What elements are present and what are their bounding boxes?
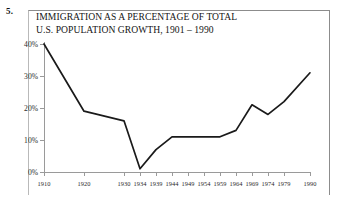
x-tick-label: 1939 xyxy=(150,180,163,187)
y-tick-label: 30% xyxy=(24,72,38,81)
x-tick-label: 1910 xyxy=(38,180,51,187)
data-line xyxy=(44,44,310,172)
x-tick-label: 1954 xyxy=(198,180,211,187)
x-tick-label: 1979 xyxy=(278,180,291,187)
x-tick xyxy=(268,172,269,176)
x-tick-label: 1959 xyxy=(214,180,227,187)
x-tick-label: 1930 xyxy=(118,180,131,187)
x-tick xyxy=(236,172,237,176)
x-tick-label: 1964 xyxy=(230,180,243,187)
x-tick-label: 1920 xyxy=(78,180,91,187)
x-tick xyxy=(124,172,125,176)
series-polyline xyxy=(44,44,310,169)
figure-root: 5. IMMIGRATION AS A PERCENTAGE OF TOTAL … xyxy=(0,0,342,202)
x-tick xyxy=(44,172,45,176)
x-tick xyxy=(188,172,189,176)
x-tick xyxy=(252,172,253,176)
x-tick xyxy=(84,172,85,176)
x-tick-label: 1944 xyxy=(166,180,179,187)
x-tick-label: 1934 xyxy=(134,180,147,187)
x-tick-label: 1949 xyxy=(182,180,195,187)
x-tick xyxy=(284,172,285,176)
y-tick-label: 10% xyxy=(24,136,38,145)
chart-title: IMMIGRATION AS A PERCENTAGE OF TOTAL U.S… xyxy=(36,11,326,36)
x-tick xyxy=(310,172,311,176)
x-tick-label: 1974 xyxy=(262,180,275,187)
x-tick-label: 1969 xyxy=(246,180,259,187)
x-tick xyxy=(140,172,141,176)
plot-area: 0%10%20%30%40% 1910192019301934193919441… xyxy=(44,44,310,172)
y-tick-label: 0% xyxy=(28,168,38,177)
x-tick-label: 1990 xyxy=(304,180,317,187)
x-tick xyxy=(172,172,173,176)
x-tick xyxy=(220,172,221,176)
x-tick xyxy=(204,172,205,176)
y-tick-label: 40% xyxy=(24,40,38,49)
x-tick xyxy=(156,172,157,176)
y-tick-label: 20% xyxy=(24,104,38,113)
question-number: 5. xyxy=(6,6,13,16)
